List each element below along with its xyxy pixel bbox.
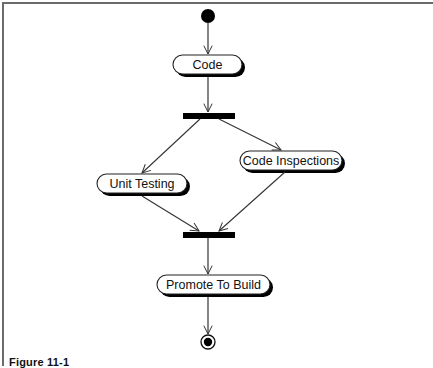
activity-promote-to-build-label: Promote To Build <box>166 278 261 292</box>
edge-code-inspections-to-join <box>219 172 285 231</box>
figure-caption: Figure 11-1 <box>9 356 69 368</box>
activity-code-label: Code <box>193 58 223 72</box>
edge-unit-testing-to-join <box>142 196 199 231</box>
activity-unit-testing-label: Unit Testing <box>109 177 174 191</box>
final-node <box>201 335 215 349</box>
activity-code: Code <box>173 55 245 77</box>
edge-fork-to-unit-testing <box>142 119 200 173</box>
fork-bar <box>183 113 235 119</box>
activity-code-inspections: Code Inspections <box>240 151 345 173</box>
activity-code-inspections-label: Code Inspections <box>243 154 340 168</box>
initial-node <box>201 9 215 23</box>
join-bar <box>183 232 235 238</box>
activity-promote-to-build: Promote To Build <box>157 275 273 297</box>
activity-unit-testing: Unit Testing <box>97 174 190 196</box>
edge-fork-to-code-inspections <box>219 119 281 150</box>
